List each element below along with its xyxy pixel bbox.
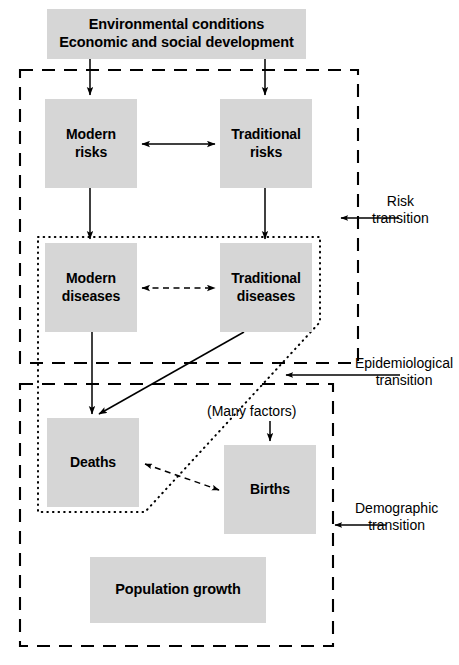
label-risk-transition: Risk transition xyxy=(372,193,429,226)
node-modern-diseases[interactable]: Modern diseases xyxy=(45,243,137,332)
label-risk-transition-line2: transition xyxy=(372,210,429,227)
node-environment-line2: Economic and social development xyxy=(59,34,294,52)
node-traditional-risks-line2: risks xyxy=(231,144,301,161)
node-traditional-risks-line1: Traditional xyxy=(231,126,301,143)
node-population-growth-label: Population growth xyxy=(90,581,266,599)
node-modern-risks-line1: Modern xyxy=(66,126,116,143)
node-environmental-conditions[interactable]: Environmental conditions Economic and so… xyxy=(47,9,306,59)
node-traditional-diseases[interactable]: Traditional diseases xyxy=(220,243,312,332)
label-demographic-transition-line2: transition xyxy=(355,517,438,534)
node-deaths-label: Deaths xyxy=(47,454,139,471)
label-demographic-transition-line1: Demographic xyxy=(355,500,438,517)
label-risk-transition-line1: Risk xyxy=(372,193,429,210)
node-deaths[interactable]: Deaths xyxy=(47,418,139,507)
node-modern-diseases-line2: diseases xyxy=(62,288,120,305)
diagram-canvas: Environmental conditions Economic and so… xyxy=(0,0,459,665)
arrow-traditional-diseases-to-deaths xyxy=(99,332,244,414)
node-traditional-diseases-line1: Traditional xyxy=(231,270,301,287)
label-epidemiological-transition: Epidemiological transition xyxy=(355,355,453,388)
node-environment-line1: Environmental conditions xyxy=(59,16,294,34)
annotation-many-factors: (Many factors) xyxy=(207,403,296,419)
arrow-deaths-births xyxy=(145,464,219,490)
node-births-label: Births xyxy=(224,481,316,498)
label-demographic-transition: Demographic transition xyxy=(355,500,438,533)
node-modern-risks-line2: risks xyxy=(66,144,116,161)
node-modern-diseases-line1: Modern xyxy=(62,270,120,287)
label-epidemiological-transition-line2: transition xyxy=(355,372,453,389)
node-births[interactable]: Births xyxy=(224,445,316,534)
node-population-growth[interactable]: Population growth xyxy=(90,557,266,623)
label-epidemiological-transition-line1: Epidemiological xyxy=(355,355,453,372)
node-traditional-diseases-line2: diseases xyxy=(231,288,301,305)
node-modern-risks[interactable]: Modern risks xyxy=(45,99,137,188)
node-traditional-risks[interactable]: Traditional risks xyxy=(220,99,312,188)
